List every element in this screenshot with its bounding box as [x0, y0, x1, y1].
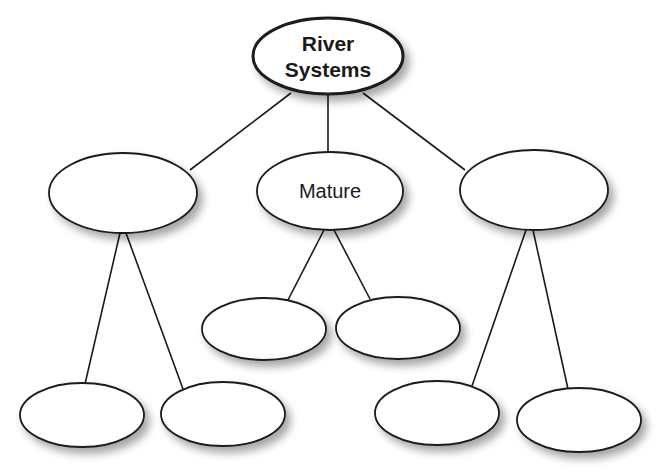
node-ellipse: [161, 382, 285, 446]
node-right-child-2: [517, 388, 641, 452]
node-left-child-2: [161, 382, 285, 446]
edge-root-to-right: [363, 93, 465, 170]
node-root: RiverSystems: [253, 18, 403, 94]
node-ellipse: [49, 153, 197, 233]
edge-root-to-left: [190, 93, 291, 170]
node-label: Mature: [299, 180, 361, 202]
node-right-child-1: [375, 381, 499, 445]
node-ellipse: [202, 298, 326, 360]
node-ellipse: [336, 297, 460, 359]
edge-left-to-left-child-1: [85, 233, 120, 384]
node-left-child-1: [20, 383, 144, 447]
edge-left-to-left-child-2: [126, 233, 183, 389]
connector-lines: [85, 93, 568, 389]
edge-right-to-right-child-2: [533, 230, 568, 389]
node-mature: Mature: [257, 152, 403, 230]
node-right: [460, 150, 608, 230]
concept-map: RiverSystemsMature: [0, 0, 668, 476]
edge-mature-to-mature-child-2: [334, 230, 370, 299]
node-ellipse: [253, 18, 403, 94]
node-left: [49, 153, 197, 233]
node-mature-child-1: [202, 298, 326, 360]
node-mature-child-2: [336, 297, 460, 359]
node-ellipse: [20, 383, 144, 447]
node-ellipse: [517, 388, 641, 452]
node-label: Systems: [285, 58, 371, 81]
concept-nodes: RiverSystemsMature: [20, 18, 641, 452]
node-ellipse: [375, 381, 499, 445]
node-ellipse: [460, 150, 608, 230]
edge-mature-to-mature-child-1: [288, 230, 324, 300]
node-label: River: [302, 32, 355, 55]
edge-right-to-right-child-1: [472, 230, 526, 386]
